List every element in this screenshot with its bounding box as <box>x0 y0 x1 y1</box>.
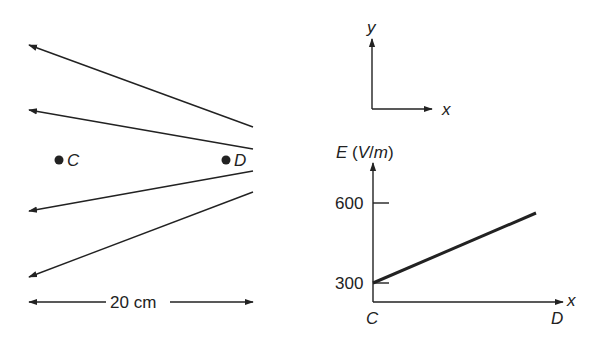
point-c-label: C <box>67 152 79 169</box>
point-d-dot <box>222 156 231 165</box>
field-line-1 <box>29 45 253 127</box>
graph-x-axis-label: x <box>567 292 576 309</box>
reference-y-label: y <box>367 19 376 36</box>
reference-axes <box>372 39 432 109</box>
point-d-label: D <box>234 152 246 169</box>
diagram-canvas <box>0 0 606 346</box>
graph-x-start-label: C <box>366 310 378 327</box>
reference-x-label: x <box>442 101 451 118</box>
tick-label-300: 300 <box>335 275 363 292</box>
point-c-dot <box>55 156 64 165</box>
graph-y-axis-label: E (V/m) <box>336 144 394 161</box>
field-line-2 <box>29 110 253 149</box>
graph-axes <box>373 163 563 302</box>
distance-label: 20 cm <box>110 294 156 311</box>
e-field-line <box>373 213 536 283</box>
graph-x-end-label: D <box>551 310 563 327</box>
tick-label-600: 600 <box>335 195 363 212</box>
